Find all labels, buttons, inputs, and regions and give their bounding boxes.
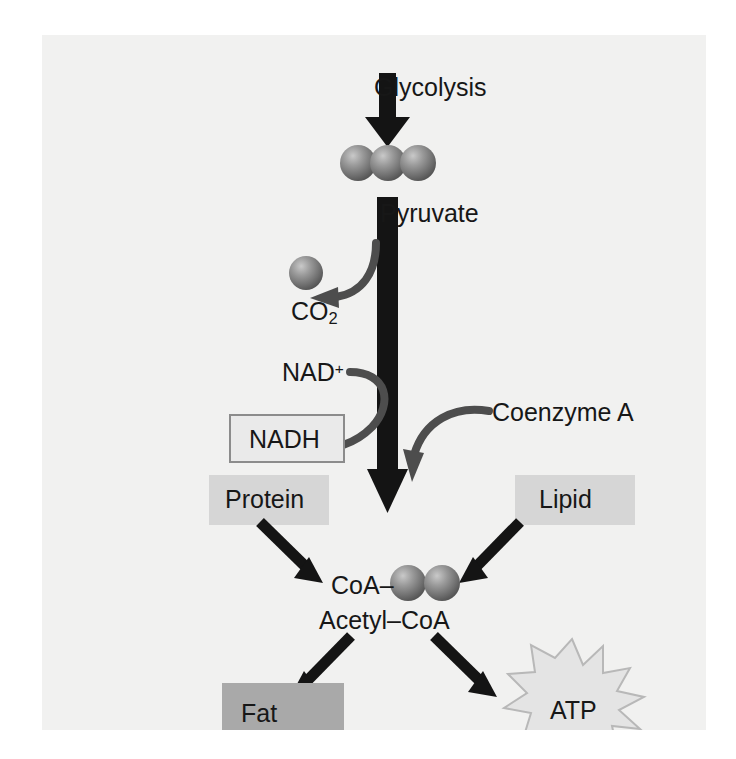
pyruvate-spheres [340,145,436,181]
label-co2-subscript: 2 [329,309,338,327]
label-lipid: Lipid [539,487,592,512]
label-glycolysis: Glycolysis [374,75,487,100]
figure-root: Glycolysis Pyruvate CO2 NAD+ Coenzyme A … [0,0,736,759]
label-protein: Protein [225,487,304,512]
label-co2: CO2 [291,299,338,326]
arrow-lipid-to-acetyl-coa [459,522,520,583]
label-nadh: NADH [249,427,320,452]
label-co2-text: CO [291,297,329,325]
label-atp: ATP [550,698,597,723]
label-coenzyme-a: Coenzyme A [492,400,634,425]
label-nad-plus: NAD+ [282,360,344,385]
label-pyruvate: Pyruvate [380,201,479,226]
arrow-acetyl-coa-to-atp [434,636,497,697]
arrow-protein-to-acetyl-coa [260,522,323,583]
pathway-diagram-panel: Glycolysis Pyruvate CO2 NAD+ Coenzyme A … [42,35,706,730]
label-coa: CoA– [331,573,394,598]
acetyl-coa-spheres [390,565,460,601]
label-fat: Fat [241,701,277,726]
label-acetyl-coa: Acetyl–CoA [319,608,450,633]
arrow-coenzyme-a-to-pathway [403,410,489,482]
label-nad-plus-text: NAD [282,358,335,386]
label-nad-plus-superscript: + [335,360,344,377]
co2-sphere [289,256,323,290]
